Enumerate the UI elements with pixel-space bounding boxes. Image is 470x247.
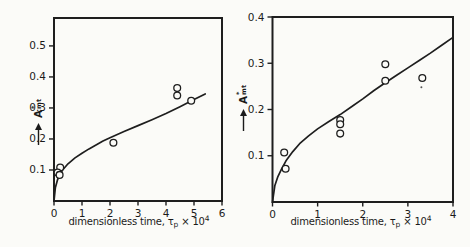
right-y-axis-label: A*mt <box>235 72 251 144</box>
y-tick-label: 0.5 <box>29 39 46 51</box>
x-tick-label: 6 <box>219 207 226 219</box>
data-point <box>382 77 389 84</box>
y-axis-symbol: A*mt <box>237 85 249 104</box>
data-point <box>337 130 344 137</box>
data-point <box>282 165 289 172</box>
x-label-text: dimensionless time, <box>290 216 389 227</box>
y-symbol-sub: mt <box>242 85 248 95</box>
data-point <box>337 121 344 128</box>
data-point <box>56 172 63 179</box>
plot-frame <box>273 17 454 202</box>
times-ten: × 10 <box>178 216 204 227</box>
y-tick-label: 0.4 <box>248 11 265 23</box>
y-tick-label: 0.1 <box>248 149 265 161</box>
data-point <box>174 85 181 92</box>
data-point <box>419 75 426 82</box>
plot-frame <box>54 18 222 201</box>
scanned-figure: 01234560.10.20.30.40.5 A*mt dimensionles… <box>0 0 470 247</box>
data-point <box>110 139 117 146</box>
times-ten: × 10 <box>400 216 426 227</box>
x-label-text: dimensionless time, <box>68 216 167 227</box>
left-y-axis-label: A*mt <box>30 86 46 158</box>
right-plot: 012340.10.20.30.4 A*mt dimensionless tim… <box>235 0 470 247</box>
exponent: 4 <box>205 214 210 223</box>
x-tick-label: 0 <box>269 208 276 220</box>
fitted-curve <box>273 37 454 202</box>
exponent: 4 <box>427 214 432 223</box>
up-arrow-icon <box>239 109 248 131</box>
data-point <box>174 92 181 99</box>
data-point <box>382 61 389 68</box>
fitted-curve <box>54 94 205 201</box>
right-plot-canvas: 012340.10.20.30.4 <box>235 0 470 247</box>
y-tick-label: 0.1 <box>29 163 46 175</box>
x-tick-label: 4 <box>450 208 457 220</box>
y-axis-symbol: A*mt <box>32 99 44 118</box>
left-x-axis-label: dimensionless time, τp × 104 <box>68 214 209 229</box>
left-plot: 01234560.10.20.30.40.5 A*mt dimensionles… <box>0 0 235 247</box>
data-point <box>188 97 195 104</box>
data-point <box>281 149 288 156</box>
y-symbol-sub: mt <box>37 99 43 109</box>
y-symbol-letter: A <box>237 96 249 104</box>
right-x-axis-label: dimensionless time, τp × 104 <box>290 214 431 229</box>
y-symbol-letter: A <box>32 110 44 118</box>
print-speck <box>420 86 422 88</box>
y-tick-label: 0.4 <box>29 70 46 82</box>
x-tick-label: 0 <box>51 207 58 219</box>
y-tick-label: 0.3 <box>248 57 265 69</box>
up-arrow-icon <box>34 123 43 145</box>
